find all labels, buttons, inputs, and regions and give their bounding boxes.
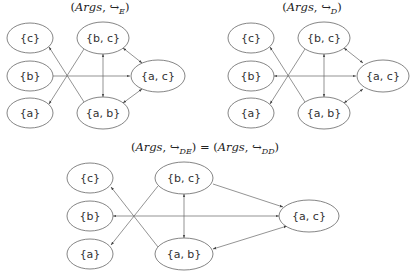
graph-d-title: (Args, ↪D)	[282, 0, 341, 16]
node-ac: {a, c}	[279, 200, 339, 232]
edge-bc-to-a	[111, 186, 158, 245]
node-ab: {a, b}	[298, 97, 350, 129]
svg-text:{c}: {c}	[241, 32, 261, 45]
edge-ab-ac	[213, 226, 287, 249]
svg-text:{a, c}: {a, c}	[366, 70, 400, 83]
svg-text:{a, c}: {a, c}	[141, 70, 175, 83]
node-a: {a}	[7, 98, 53, 128]
svg-text:{b, c}: {b, c}	[307, 32, 341, 45]
edge-bc-to-a	[49, 49, 84, 104]
edge-ab-ac	[123, 89, 142, 103]
node-a: {a}	[228, 98, 274, 128]
svg-text:{c}: {c}	[20, 32, 40, 45]
edge-bc-to-ac	[213, 184, 283, 207]
svg-text:{a, b}: {a, b}	[167, 248, 202, 261]
graph-e-title: (Args, ↪E)	[71, 0, 130, 16]
svg-text:{b, c}: {b, c}	[86, 32, 120, 45]
argumentation-graphs-figure: (Args, ↪E) {c} {b} {a} {b, c} {a, b} {a,…	[0, 0, 410, 275]
graph-d: (Args, ↪D) {c} {b} {a} {b, c} {a, b} {a,…	[228, 0, 409, 129]
node-ab: {a, b}	[77, 97, 129, 129]
edge-bc-ac	[123, 48, 142, 63]
node-ac: {a, c}	[131, 60, 185, 92]
node-b: {b}	[228, 61, 274, 91]
svg-text:{b}: {b}	[20, 70, 41, 83]
svg-text:{a}: {a}	[20, 107, 41, 120]
svg-text:{b}: {b}	[80, 210, 101, 223]
edge-bc-to-a	[270, 49, 305, 104]
svg-text:{b}: {b}	[241, 70, 262, 83]
node-b: {b}	[67, 201, 113, 231]
node-c: {c}	[7, 23, 53, 53]
edge-ab-to-c	[270, 47, 305, 102]
svg-text:{c}: {c}	[80, 172, 100, 185]
node-c: {c}	[228, 23, 274, 53]
node-bc: {b, c}	[77, 22, 129, 54]
graph-de-dd: (Args, ↪DE) = (Args, ↪DD) {c} {b} {a} {b…	[67, 140, 339, 270]
node-c: {c}	[67, 163, 113, 193]
svg-text:{a, b}: {a, b}	[86, 107, 121, 120]
node-ac: {a, c}	[357, 60, 409, 92]
graph-de-dd-title: (Args, ↪DE) = (Args, ↪DD)	[131, 140, 279, 156]
svg-text:{a, c}: {a, c}	[292, 210, 326, 223]
svg-text:{a}: {a}	[241, 107, 262, 120]
edge-ab-to-c	[49, 47, 84, 102]
svg-text:{b, c}: {b, c}	[167, 172, 201, 185]
edge-ab-ac	[344, 89, 363, 103]
node-b: {b}	[7, 61, 53, 91]
svg-text:{a, b}: {a, b}	[307, 107, 342, 120]
graph-e: (Args, ↪E) {c} {b} {a} {b, c} {a, b} {a,…	[7, 0, 185, 129]
node-a: {a}	[67, 239, 113, 269]
svg-text:{a}: {a}	[80, 248, 101, 261]
edge-bc-ac	[344, 48, 363, 63]
edge-ab-to-c	[111, 187, 158, 247]
node-ab: {a, b}	[155, 238, 213, 270]
node-bc: {b, c}	[298, 22, 350, 54]
node-bc: {b, c}	[155, 162, 213, 194]
